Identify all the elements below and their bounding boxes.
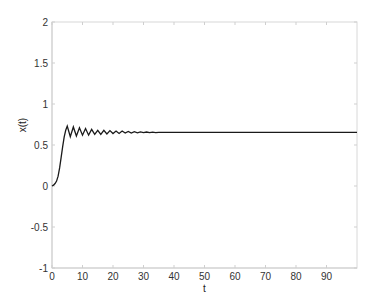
- x-tick-label: 50: [199, 271, 211, 282]
- x-axis-label: t: [203, 283, 206, 294]
- x-tick-label: 90: [321, 271, 333, 282]
- x-tick-label: 10: [77, 271, 89, 282]
- y-ticks: -1-0.500.511.52: [31, 17, 357, 274]
- x-tick-label: 80: [290, 271, 302, 282]
- axes-box: [52, 22, 357, 268]
- y-tick-label: 2: [42, 17, 48, 28]
- plot-area: [52, 22, 357, 268]
- y-tick-label: -0.5: [31, 222, 49, 233]
- x-ticks: 0102030405060708090: [49, 22, 332, 282]
- x-tick-label: 30: [138, 271, 150, 282]
- x-tick-label: 20: [107, 271, 119, 282]
- y-tick-label: 0.5: [34, 140, 48, 151]
- series-layer: [52, 126, 357, 186]
- x-tick-label: 0: [49, 271, 55, 282]
- y-tick-label: -1: [39, 263, 48, 274]
- line-chart: 0102030405060708090 -1-0.500.511.52 t x(…: [0, 0, 374, 303]
- y-tick-label: 1: [42, 99, 48, 110]
- x-tick-label: 70: [260, 271, 272, 282]
- y-tick-label: 0: [42, 181, 48, 192]
- series-line-x-t: [52, 126, 357, 186]
- y-axis-label: x(t): [17, 118, 28, 132]
- x-tick-label: 40: [168, 271, 180, 282]
- y-tick-label: 1.5: [34, 58, 48, 69]
- x-tick-label: 60: [229, 271, 241, 282]
